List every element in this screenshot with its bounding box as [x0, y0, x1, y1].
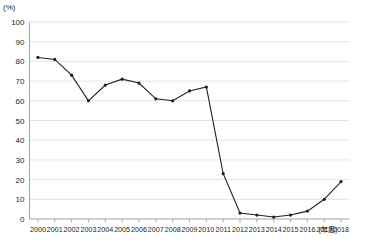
y-axis-tick-label: 30	[16, 156, 25, 165]
x-axis-ticks: 2000200120022003200420052006200720082009…	[30, 219, 349, 234]
data-point-marker	[36, 56, 39, 59]
y-axis-ticks: 1009080706050403020100	[11, 18, 25, 224]
data-point-marker	[137, 81, 140, 84]
data-point-marker	[272, 215, 275, 218]
gridlines	[30, 22, 350, 199]
data-point-marker	[306, 210, 309, 213]
data-point-marker	[323, 198, 326, 201]
y-axis-tick-label: 40	[16, 136, 25, 145]
y-axis-tick-label: 10	[16, 195, 25, 204]
x-axis-tick-label: 2012	[232, 225, 248, 234]
data-point-marker	[70, 74, 73, 77]
x-axis-tick-label: 2003	[80, 225, 96, 234]
line-chart: (%) 1009080706050403020100 2000200120022…	[0, 0, 366, 250]
y-axis-tick-label: 60	[16, 97, 25, 106]
x-axis-tick-label: 2001	[47, 225, 63, 234]
data-point-marker	[53, 58, 56, 61]
x-axis-tick-label: 2014	[266, 225, 282, 234]
x-axis-tick-label: 2011	[215, 225, 230, 234]
data-point-marker	[154, 97, 157, 100]
x-axis-title: (年度)	[319, 225, 338, 234]
y-axis-tick-label: 50	[16, 117, 25, 126]
data-point-marker	[171, 99, 174, 102]
data-point-marker	[289, 213, 292, 216]
x-axis-tick-label: 2013	[249, 225, 265, 234]
data-point-marker	[188, 89, 191, 92]
x-axis-tick-label: 2007	[148, 225, 164, 234]
y-axis-tick-label: 90	[16, 38, 25, 47]
data-point-marker	[121, 78, 124, 81]
data-point-marker	[222, 172, 225, 175]
x-axis-tick-label: 2006	[131, 225, 147, 234]
data-point-marker	[255, 213, 258, 216]
x-axis-tick-label: 2005	[114, 225, 130, 234]
x-axis-title-label: (年度)	[319, 225, 338, 234]
y-axis-tick-label: 100	[11, 18, 25, 27]
data-point-marker	[205, 85, 208, 88]
x-axis-tick-label: 2009	[182, 225, 198, 234]
x-axis-tick-label: 2002	[64, 225, 80, 234]
y-axis-tick-label: 20	[16, 176, 25, 185]
chart-plot-area: 1009080706050403020100 20002001200220032…	[0, 0, 366, 250]
data-point-marker	[238, 211, 241, 214]
x-axis-tick-label: 2016	[299, 225, 315, 234]
data-point-marker	[104, 83, 107, 86]
data-point-marker	[87, 99, 90, 102]
data-point-markers	[36, 56, 342, 219]
y-axis-tick-label: 70	[16, 77, 25, 86]
x-axis-tick-label: 2008	[165, 225, 181, 234]
x-axis-tick-label: 2000	[30, 225, 46, 234]
y-axis-tick-label: 80	[16, 57, 25, 66]
y-axis-tick-label: 0	[20, 215, 25, 224]
x-axis-tick-label: 2010	[198, 225, 214, 234]
data-point-marker	[339, 180, 342, 183]
x-axis-tick-label: 2004	[97, 225, 113, 234]
x-axis-tick-label: 2015	[283, 225, 299, 234]
